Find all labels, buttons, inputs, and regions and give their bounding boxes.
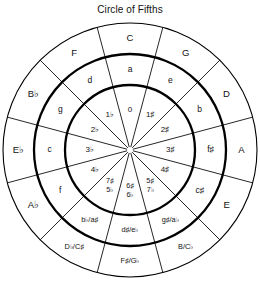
minor-key-label-4: c♯ [195,185,204,195]
minor-key-label-0: a [128,64,133,74]
key-signature-label-1: 1♯ [146,110,154,119]
key-signature-label-5: 5♯7♭ [146,176,154,194]
key-signature-label-0: 0 [128,105,133,114]
minor-key-label-10: g [58,104,63,114]
major-key-label-2: D [223,88,230,99]
segment-divider-line [132,152,220,240]
major-key-label-6: F♯/G♭ [120,256,139,265]
major-key-label-5: B/C♭ [178,242,193,251]
segment-divider-line [97,27,129,147]
major-key-label-11: F [71,47,77,58]
key-signature-label-5-line: 7♭ [147,184,154,193]
key-signature-label-6-line: 6♭ [127,190,134,199]
segment-divider-line [131,27,163,147]
key-signature-label-10: 2♭ [91,125,99,134]
minor-key-label-9: c [47,144,52,154]
key-signature-label-6: 6♯6♭ [126,181,134,199]
major-key-label-4: E [223,199,229,210]
key-signature-label-4: 4♯ [161,165,169,174]
minor-key-label-7: b♭/a♯ [81,215,98,224]
minor-key-label-2: b [197,104,202,114]
minor-key-label-6: d♯/e♭ [122,225,139,234]
major-key-label-8: A♭ [28,199,39,210]
segment-divider-line [132,60,220,148]
minor-key-label-8: f [59,185,62,195]
circle-of-fifths-page: Circle of Fifths Ca0Ge1♯Db2♯Af♯3♯Ec♯4♯B/… [0,0,260,287]
major-key-label-0: C [127,32,134,43]
circle-of-fifths-diagram: Ca0Ge1♯Db2♯Af♯3♯Ec♯4♯B/C♭g♯/a♭5♯7♭F♯/G♭d… [0,0,260,287]
key-signature-label-11: 1♭ [106,110,114,119]
minor-key-label-3: f♯ [207,144,214,154]
key-signature-label-9: 3♭ [85,145,93,154]
segment-divider-line [40,60,128,148]
segment-divider-line [131,153,163,273]
major-key-label-7: D♭/C♯ [65,242,85,251]
minor-key-label-1: e [168,75,173,85]
segment-divider-line [133,117,253,149]
major-key-label-10: B♭ [28,88,39,99]
segment-divider-line [97,153,129,273]
major-key-label-1: G [182,47,189,58]
key-signature-label-7-line: 5♭ [106,184,113,193]
key-signature-label-2: 2♯ [161,125,169,134]
key-signature-label-3: 3♯ [166,145,174,154]
segment-divider-line [7,117,127,149]
minor-key-label-5: g♯/a♭ [162,215,179,224]
minor-key-label-11: d [87,75,92,85]
major-key-label-3: A [238,144,245,155]
major-key-label-9: E♭ [13,144,24,155]
key-signature-label-8: 4♭ [91,165,99,174]
segment-divider-line [40,152,128,240]
key-signature-label-7: 7♯5♭ [106,176,114,194]
